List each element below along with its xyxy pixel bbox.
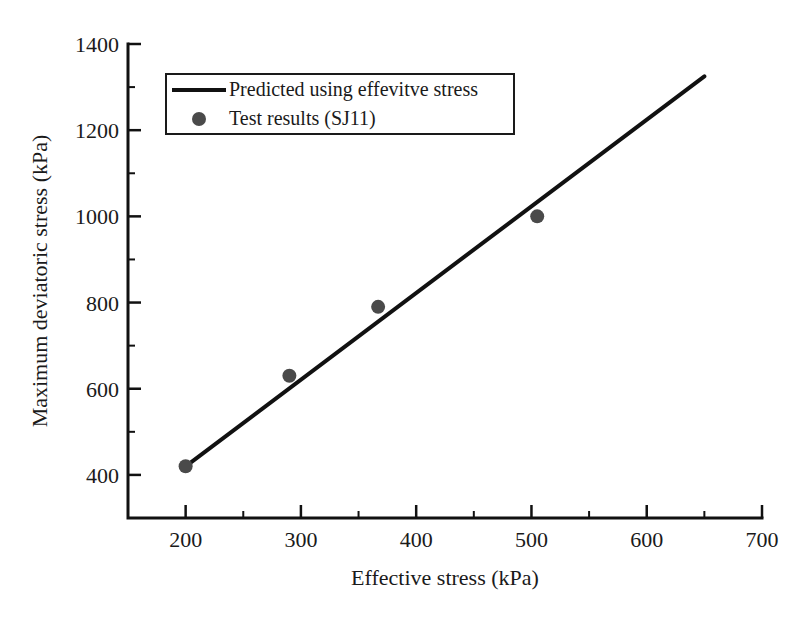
legend-item-predicted: Predicted using effevitve stress (167, 75, 513, 104)
legend-label-predicted: Predicted using effevitve stress (229, 78, 478, 101)
svg-text:400: 400 (400, 527, 433, 552)
svg-text:1400: 1400 (75, 32, 119, 57)
legend-item-test-results: Test results (SJ11) (167, 104, 513, 133)
svg-text:700: 700 (746, 527, 779, 552)
chart-figure: 200300400500600700400600800100012001400 … (0, 0, 809, 622)
svg-text:600: 600 (86, 377, 119, 402)
svg-text:500: 500 (515, 527, 548, 552)
dot-marker-icon (192, 112, 206, 126)
line-swatch-icon (172, 88, 226, 92)
svg-text:300: 300 (284, 527, 317, 552)
x-axis-title: Effective stress (kPa) (351, 565, 539, 591)
svg-text:600: 600 (630, 527, 663, 552)
y-axis-title: Maximum deviatoric stress (kPa) (27, 135, 53, 428)
svg-text:1000: 1000 (75, 204, 119, 229)
legend-dot-sample (172, 112, 226, 126)
svg-text:1200: 1200 (75, 118, 119, 143)
legend-line-sample (172, 88, 226, 92)
legend: Predicted using effevitve stress Test re… (165, 73, 515, 135)
svg-text:400: 400 (86, 463, 119, 488)
svg-text:200: 200 (169, 527, 202, 552)
svg-text:800: 800 (86, 291, 119, 316)
legend-label-test-results: Test results (SJ11) (229, 107, 376, 130)
